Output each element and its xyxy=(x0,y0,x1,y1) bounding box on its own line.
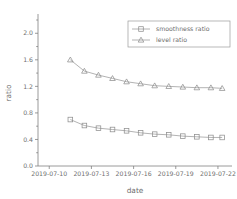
x-tick-label: 2019-07-19 xyxy=(158,170,194,177)
chart-figure: 0.00.40.81.21.62.02019-07-102019-07-1320… xyxy=(0,0,237,199)
y-tick-label: 2.0 xyxy=(23,29,33,36)
y-tick-label: 0.4 xyxy=(23,136,33,143)
y-tick-label: 1.2 xyxy=(23,83,33,90)
x-axis-title: date xyxy=(127,186,144,195)
x-tick-label: 2019-07-16 xyxy=(116,170,152,177)
data-point-level-ratio xyxy=(68,57,74,62)
x-tick-label: 2019-07-22 xyxy=(200,170,236,177)
y-tick-label: 0.8 xyxy=(23,109,33,116)
line-chart-canvas: 0.00.40.81.21.62.02019-07-102019-07-1320… xyxy=(0,0,237,199)
y-axis-title: ratio xyxy=(4,84,13,102)
legend-label: level ratio xyxy=(156,36,187,43)
series-line-level-ratio xyxy=(70,60,222,89)
legend-label: smoothness ratio xyxy=(156,25,210,32)
y-tick-label: 0.0 xyxy=(23,162,33,169)
y-tick-label: 1.6 xyxy=(23,56,33,63)
x-tick-label: 2019-07-13 xyxy=(73,170,109,177)
x-tick-label: 2019-07-10 xyxy=(31,170,67,177)
